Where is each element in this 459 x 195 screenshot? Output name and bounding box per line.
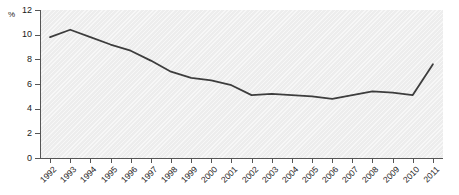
x-tick-mark	[372, 159, 373, 163]
x-tick-label: 1993	[54, 165, 79, 190]
y-tick-label: 10	[22, 30, 32, 39]
x-tick-mark	[70, 159, 71, 163]
x-tick-mark	[433, 159, 434, 163]
x-tick-mark	[352, 159, 353, 163]
x-tick-mark	[211, 159, 212, 163]
x-tick-mark	[292, 159, 293, 163]
x-tick-mark	[90, 159, 91, 163]
x-tick-label: 2008	[356, 165, 381, 190]
x-tick-mark	[393, 159, 394, 163]
x-tick-mark	[413, 159, 414, 163]
y-tick-label: 8	[27, 55, 32, 64]
x-tick-mark	[231, 159, 232, 163]
x-tick-label: 2000	[195, 165, 220, 190]
x-tick-label: 1992	[34, 165, 59, 190]
x-tick-label: 2001	[215, 165, 240, 190]
x-tick-label: 2005	[296, 165, 321, 190]
x-tick-label: 1995	[94, 165, 119, 190]
x-tick-mark	[332, 159, 333, 163]
y-tick-mark	[35, 158, 40, 159]
x-tick-label: 2009	[376, 165, 401, 190]
series-polyline	[50, 30, 433, 99]
x-tick-mark	[191, 159, 192, 163]
x-tick-label: 2010	[396, 165, 421, 190]
y-tick-label: 6	[27, 80, 32, 89]
x-tick-mark	[111, 159, 112, 163]
x-tick-mark	[272, 159, 273, 163]
x-tick-label: 2006	[316, 165, 341, 190]
y-tick-label: 0	[27, 154, 32, 163]
x-tick-mark	[171, 159, 172, 163]
x-tick-label: 1997	[134, 165, 159, 190]
x-tick-label: 1999	[175, 165, 200, 190]
series-line-unemployment-rate	[40, 10, 443, 158]
x-tick-label: 1994	[74, 165, 99, 190]
x-tick-label: 2004	[275, 165, 300, 190]
x-tick-label: 2003	[255, 165, 280, 190]
y-tick-label: 12	[22, 6, 32, 15]
x-axis-line	[40, 158, 443, 159]
x-tick-mark	[252, 159, 253, 163]
x-tick-label: 1996	[114, 165, 139, 190]
y-tick-label: 4	[27, 104, 32, 113]
x-tick-label: 1998	[155, 165, 180, 190]
x-tick-label: 2002	[235, 165, 260, 190]
y-tick-label: 2	[27, 129, 32, 138]
x-tick-mark	[50, 159, 51, 163]
x-tick-mark	[312, 159, 313, 163]
x-tick-label: 2011	[417, 165, 442, 190]
x-tick-mark	[131, 159, 132, 163]
line-chart: % 024681012 1992199319941995199619971998…	[0, 0, 459, 195]
x-tick-mark	[151, 159, 152, 163]
x-tick-label: 2007	[336, 165, 361, 190]
y-axis-unit-label: %	[8, 11, 15, 19]
